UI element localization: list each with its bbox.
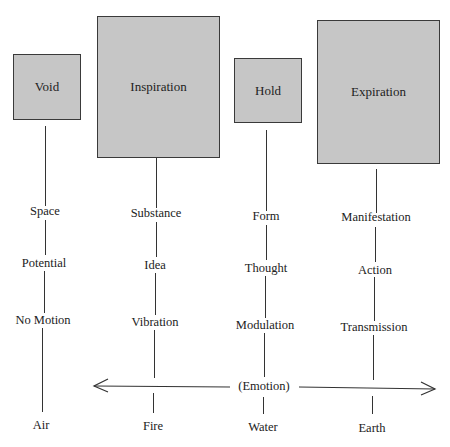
emotion-arrow — [0, 0, 450, 447]
label-emotion: (Emotion) — [238, 379, 289, 394]
